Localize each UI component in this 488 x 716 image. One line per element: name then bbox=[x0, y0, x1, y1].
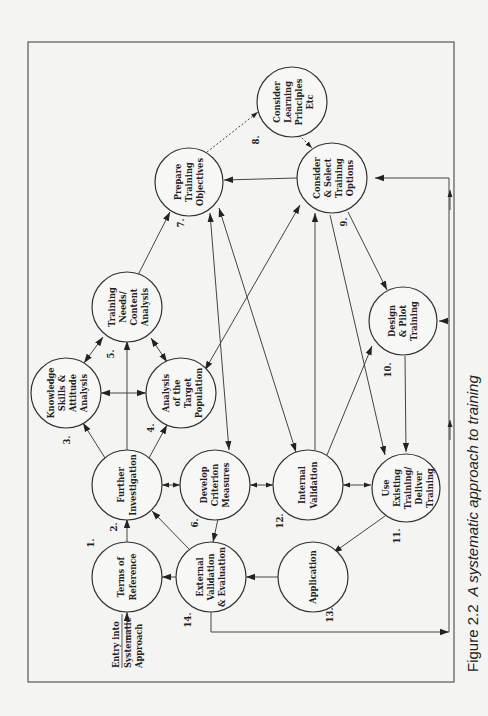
node-7-number: 7. bbox=[176, 219, 186, 228]
node-label-line: External bbox=[195, 557, 205, 596]
node-label-line: Existing bbox=[392, 469, 402, 507]
edge-9-to-10 bbox=[348, 212, 387, 290]
node-circle bbox=[92, 542, 162, 612]
node-13-number: 13. bbox=[325, 608, 335, 623]
figure-caption: Figure 2.2A systematic approach to train… bbox=[464, 375, 481, 672]
node-circle bbox=[92, 450, 162, 520]
node-label-line: Knowledge bbox=[46, 367, 56, 418]
node-10-number: 10. bbox=[383, 363, 393, 378]
edge-7-to-8 bbox=[207, 112, 258, 152]
node-circle bbox=[273, 450, 343, 520]
node-label-line: Population bbox=[194, 368, 204, 418]
node-label-line: Etc bbox=[305, 94, 315, 109]
node-3-knowledge-skills-attitude-analysis: Knowledge Skills & Attitude Analysis bbox=[31, 358, 101, 428]
figure-number: Figure 2.2 bbox=[464, 604, 481, 672]
node-7-prepare-training-objectives: Prepare Training Objectives bbox=[155, 148, 223, 216]
node-12-number: 12. bbox=[275, 514, 285, 529]
node-label-line: Use bbox=[381, 479, 391, 496]
node-5-training-needs-content-analysis: Training Needs/ Content Analysis bbox=[92, 272, 162, 342]
node-8-number: 8. bbox=[251, 136, 261, 145]
node-2-further-investigation: Further Investigation bbox=[92, 450, 162, 520]
node-11-number: 11. bbox=[392, 529, 402, 544]
edge-8-to-9 bbox=[299, 135, 312, 148]
node-1-number: 1. bbox=[86, 539, 96, 548]
node-label-line: Consider bbox=[272, 81, 282, 123]
node-9-consider-select-training-options: Consider & Select Training Options bbox=[297, 143, 367, 213]
node-label-line: Terms of bbox=[116, 555, 126, 597]
node-label-line: Deliver bbox=[414, 471, 424, 505]
node-11-use-existing-deliver-training: Use Existing Training/ Deliver Training bbox=[372, 454, 440, 522]
edge-14-to-2 bbox=[152, 511, 190, 550]
node-label-line: & Evaluation bbox=[217, 547, 227, 607]
node-label-line: Training bbox=[184, 162, 194, 202]
node-label-line: Internal bbox=[297, 466, 307, 504]
node-label-line: Consider bbox=[312, 157, 322, 199]
node-label-line: Measures bbox=[221, 462, 231, 507]
node-label-line: Analysis bbox=[140, 288, 150, 328]
entry-line-3: Approach bbox=[134, 624, 144, 669]
edge-12-to-10 bbox=[327, 346, 372, 455]
node-2-number: 2. bbox=[109, 523, 119, 532]
node-14-external-validation-evaluation: External Validation & Evaluation bbox=[176, 542, 246, 612]
node-label-line: & Pilot bbox=[398, 305, 408, 337]
node-14-number: 14. bbox=[183, 613, 193, 628]
edge-2-to-3 bbox=[83, 423, 105, 458]
node-10-design-pilot-training: Design & Pilot Training bbox=[369, 287, 437, 355]
edge-7-6 bbox=[210, 213, 229, 450]
node-label-line: Training bbox=[334, 158, 344, 198]
node-label-line: Design bbox=[387, 305, 397, 337]
entry-line-1: Entry into bbox=[111, 621, 121, 668]
systematic-training-diagram: Terms of Reference 1. Further Investigat… bbox=[0, 0, 488, 716]
node-3-number: 3. bbox=[62, 436, 72, 445]
node-9-number: 9. bbox=[339, 218, 349, 227]
node-label-line: & Select bbox=[323, 158, 333, 197]
node-label-line: of the bbox=[172, 379, 182, 406]
node-label-line: Training bbox=[409, 301, 419, 341]
figure-title: A systematic approach to training bbox=[464, 375, 481, 598]
entry-line-2: Systematic bbox=[123, 617, 133, 668]
node-8-consider-learning-principles: Consider Learning Principles Etc bbox=[257, 67, 327, 137]
node-label-line: Needs/ bbox=[118, 290, 128, 323]
node-label-line: Criterion bbox=[210, 464, 220, 506]
node-label-line: Investigation bbox=[128, 454, 138, 515]
edge-4-9 bbox=[205, 205, 300, 370]
edge-3-5 bbox=[84, 337, 103, 363]
node-6-develop-criterion-measures: Develop Criterion Measures bbox=[180, 450, 250, 520]
edge-9-to-7 bbox=[224, 178, 297, 180]
node-label-line: Principles bbox=[294, 78, 304, 125]
node-5-number: 5. bbox=[106, 350, 116, 359]
edge-rail-to-9 bbox=[375, 178, 449, 632]
edge-6-to-14 bbox=[213, 519, 218, 542]
node-label-line: Further bbox=[116, 467, 126, 503]
edge-11-to-13 bbox=[333, 516, 385, 553]
node-label-line: Prepare bbox=[173, 164, 183, 201]
node-label-line: Analysis bbox=[161, 374, 171, 414]
node-1-terms-of-reference: Terms of Reference bbox=[92, 542, 162, 612]
node-12-internal-validation: Internal Validation bbox=[273, 450, 343, 520]
node-label-line: Analysis bbox=[79, 374, 89, 414]
node-label-line: Attitude bbox=[68, 374, 78, 413]
node-label-line: Objectives bbox=[195, 158, 205, 206]
node-4-number: 4. bbox=[146, 424, 156, 433]
node-13-application: Application bbox=[278, 542, 348, 612]
node-label-line: Training bbox=[425, 468, 435, 508]
edge-7-12 bbox=[219, 208, 296, 452]
node-label-line: Validation bbox=[309, 461, 319, 509]
node-label-line: Learning bbox=[283, 81, 293, 123]
node-label-line: Skills & bbox=[57, 374, 67, 411]
node-label-line: Reference bbox=[128, 553, 138, 600]
edge-5-to-7 bbox=[138, 212, 170, 275]
edge-4-5 bbox=[151, 338, 167, 362]
node-label-line: Training/ bbox=[403, 466, 413, 509]
entry-label: Entry into Systematic Approach bbox=[111, 614, 144, 669]
node-label-line: Target bbox=[183, 378, 193, 408]
node-label-line: Application bbox=[308, 550, 318, 604]
node-label-line: Training bbox=[107, 287, 117, 327]
node-6-number: 6. bbox=[190, 519, 200, 528]
node-label-line: Options bbox=[345, 160, 355, 197]
node-4-analysis-target-population: Analysis of the Target Population bbox=[146, 358, 216, 428]
node-label-line: Validation bbox=[206, 553, 216, 601]
edge-10-to-11 bbox=[405, 356, 406, 452]
node-label-line: Content bbox=[129, 288, 139, 325]
node-label-line: Develop bbox=[199, 466, 209, 503]
